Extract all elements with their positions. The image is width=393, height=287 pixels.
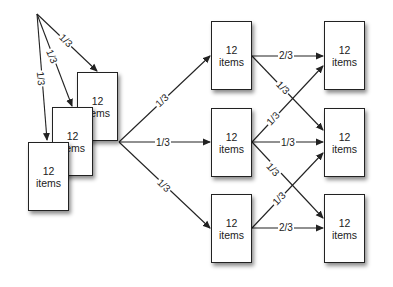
node-unit: items	[332, 229, 357, 241]
node-mid-bottom: 12 items	[211, 194, 252, 263]
node-right-bottom: 12 items	[324, 194, 365, 263]
node-mid-top: 12 items	[211, 21, 252, 90]
edge-midcenter-to-righttop	[252, 66, 323, 142]
node-unit: items	[219, 56, 244, 68]
node-count: 12	[339, 217, 351, 229]
node-count: 12	[67, 130, 79, 142]
node-unit: items	[36, 177, 61, 189]
node-count: 12	[339, 44, 351, 56]
node-stack-front: 12 items	[28, 142, 69, 211]
edge-label: 2/3	[278, 50, 294, 61]
node-count: 12	[339, 131, 351, 143]
node-right-center: 12 items	[324, 108, 365, 177]
edge-label: 2/3	[278, 222, 294, 233]
edge-label: 1/3	[280, 137, 296, 148]
node-unit: items	[332, 56, 357, 68]
node-count: 12	[226, 44, 238, 56]
node-count: 12	[43, 165, 55, 177]
node-count: 12	[226, 131, 238, 143]
node-right-top: 12 items	[324, 21, 365, 90]
node-unit: items	[219, 143, 244, 155]
edge-label: 1/3	[35, 70, 48, 87]
flow-diagram: 12 items 12 items 12 items 12 items 12 i…	[0, 0, 393, 287]
node-unit: items	[219, 229, 244, 241]
node-count: 12	[226, 217, 238, 229]
edge-midbottom-to-rightcenter	[252, 153, 323, 228]
edge-midcenter-to-rightbottom	[252, 142, 323, 218]
node-count: 12	[92, 95, 104, 107]
node-unit: items	[332, 143, 357, 155]
node-mid-center: 12 items	[211, 108, 252, 177]
edge-label: 1/3	[155, 137, 171, 148]
